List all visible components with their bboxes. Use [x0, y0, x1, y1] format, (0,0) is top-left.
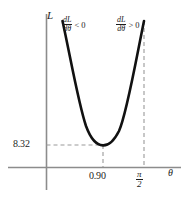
- derivative-denominator-right: dθ: [116, 25, 126, 33]
- x-tick-label-minimum: 0.90: [89, 171, 106, 181]
- annotation-derivative-negative: dL dθ < 0: [62, 16, 86, 34]
- pi-over-2-fraction: π 2: [136, 170, 143, 190]
- function-plot-figure: L θ 8.32 0.90 π 2 dL dθ < 0 dL dθ > 0: [0, 0, 188, 206]
- x-axis-label: θ: [168, 168, 173, 178]
- derivative-fraction-right: dL dθ: [116, 16, 126, 34]
- function-curve: [63, 21, 145, 145]
- y-tick-label-minimum: 8.32: [13, 139, 30, 149]
- pi-over-2-denominator: 2: [136, 180, 143, 189]
- x-tick-label-pi-over-2: π 2: [136, 170, 143, 190]
- derivative-denominator-left: dθ: [62, 25, 72, 33]
- derivative-relation-right: > 0: [128, 21, 139, 30]
- y-axis-label: L: [47, 10, 53, 21]
- derivative-fraction-left: dL dθ: [62, 16, 72, 34]
- annotation-derivative-positive: dL dθ > 0: [116, 16, 140, 34]
- derivative-relation-left: < 0: [74, 21, 85, 30]
